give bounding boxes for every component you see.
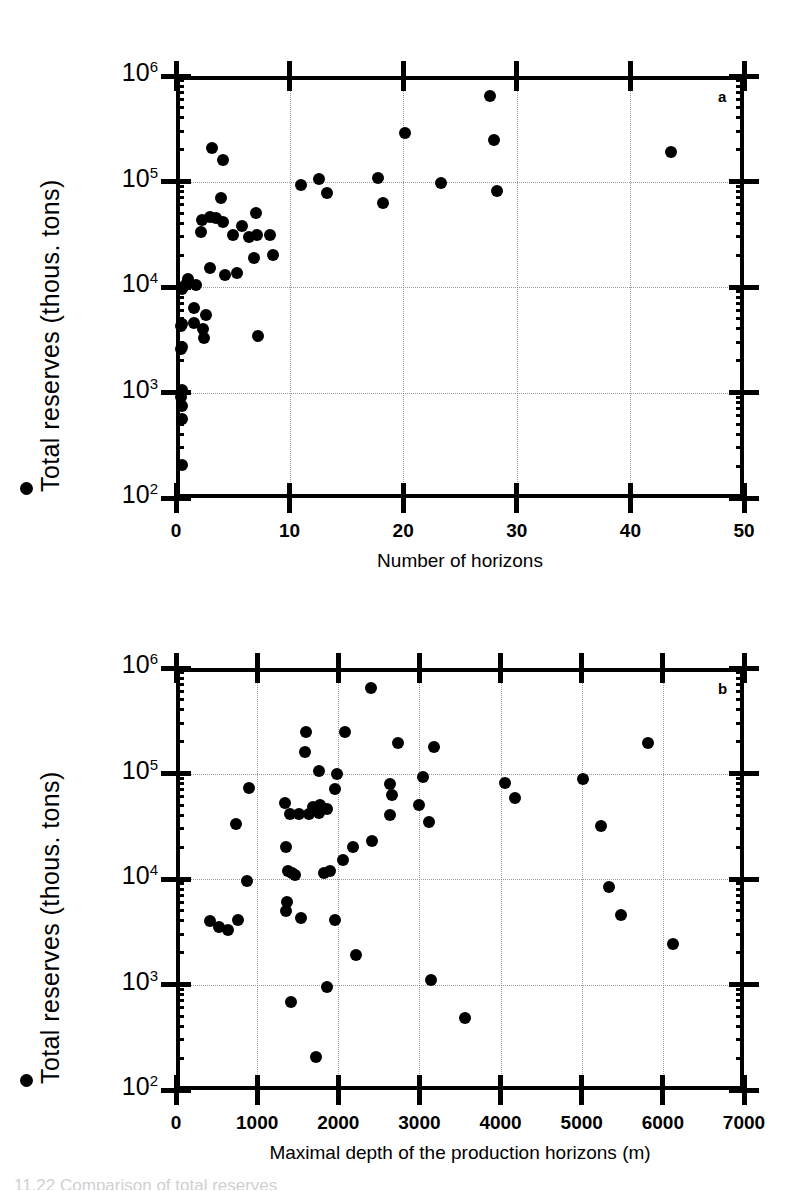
data-point: [423, 816, 435, 828]
y-minor-tick: [736, 327, 744, 330]
y-major-tick: [729, 390, 759, 395]
y-minor-tick: [736, 846, 744, 849]
y-minor-tick: [176, 91, 184, 94]
y-minor-tick: [736, 359, 744, 362]
gridline-horizontal: [176, 182, 744, 183]
y-axis-label: Total reserves (thous. tons): [36, 771, 65, 1084]
y-minor-tick: [736, 1006, 744, 1009]
data-point: [206, 142, 218, 154]
y-major-tick: [161, 982, 191, 987]
y-minor-tick: [176, 909, 184, 912]
x-major-tick: [417, 1075, 422, 1105]
gridline-vertical: [290, 76, 291, 498]
y-major-tick: [729, 982, 759, 987]
y-minor-tick: [736, 190, 744, 193]
x-major-tick: [628, 61, 633, 91]
data-point: [459, 1012, 471, 1024]
y-minor-tick: [736, 993, 744, 996]
y-minor-tick: [736, 446, 744, 449]
y-minor-tick: [736, 85, 744, 88]
data-point: [377, 197, 389, 209]
y-minor-tick: [176, 795, 184, 798]
y-minor-tick: [736, 254, 744, 257]
data-point: [435, 177, 447, 189]
data-point: [248, 252, 260, 264]
panel-label-a: a: [718, 88, 726, 105]
y-minor-tick: [736, 302, 744, 305]
data-point: [313, 807, 325, 819]
y-minor-tick: [176, 722, 184, 725]
y-minor-tick: [176, 788, 184, 791]
y-minor-tick: [736, 1015, 744, 1018]
y-minor-tick: [176, 999, 184, 1002]
y-minor-tick: [736, 1025, 744, 1028]
data-point: [236, 220, 248, 232]
y-minor-tick: [176, 106, 184, 109]
y-minor-tick: [736, 203, 744, 206]
y-minor-tick: [736, 933, 744, 936]
y-minor-tick: [736, 98, 744, 101]
y-minor-tick: [736, 401, 744, 404]
y-minor-tick: [176, 296, 184, 299]
data-point: [499, 777, 511, 789]
y-minor-tick: [736, 919, 744, 922]
y-minor-tick: [176, 85, 184, 88]
y-minor-tick: [176, 309, 184, 312]
y-tick-label: 103: [72, 967, 158, 996]
y-minor-tick: [736, 317, 744, 320]
x-axis-label: Number of horizons: [176, 550, 744, 572]
data-point: [300, 726, 312, 738]
data-point: [417, 771, 429, 783]
y-tick-label: 106: [72, 58, 158, 87]
y-minor-tick: [736, 677, 744, 680]
y-minor-tick: [736, 804, 744, 807]
y-minor-tick: [736, 999, 744, 1002]
y-minor-tick: [736, 690, 744, 693]
x-major-tick: [660, 1075, 665, 1105]
data-point: [329, 783, 341, 795]
y-minor-tick: [176, 235, 184, 238]
gridline-vertical: [663, 668, 664, 1090]
y-tick-label: 104: [72, 269, 158, 298]
y-minor-tick: [176, 1006, 184, 1009]
y-minor-tick: [176, 196, 184, 199]
y-axis-bullet-marker: [20, 482, 33, 495]
y-minor-tick: [736, 708, 744, 711]
gridline-vertical: [419, 668, 420, 1090]
data-point: [321, 981, 333, 993]
y-minor-tick: [176, 846, 184, 849]
data-point: [324, 865, 336, 877]
data-point: [175, 343, 187, 355]
y-minor-tick: [736, 909, 744, 912]
y-minor-tick: [736, 309, 744, 312]
data-point: [243, 782, 255, 794]
y-major-tick: [729, 877, 759, 882]
y-minor-tick: [176, 804, 184, 807]
y-minor-tick: [176, 302, 184, 305]
y-minor-tick: [176, 740, 184, 743]
x-major-tick: [498, 1075, 503, 1105]
y-minor-tick: [736, 671, 744, 674]
y-minor-tick: [736, 396, 744, 399]
y-major-tick: [161, 666, 191, 671]
gridline-vertical: [630, 76, 631, 498]
data-point: [232, 914, 244, 926]
gridline-vertical: [403, 76, 404, 498]
y-tick-label: 105: [72, 756, 158, 785]
y-minor-tick: [736, 888, 744, 891]
y-minor-tick: [736, 740, 744, 743]
y-minor-tick: [176, 98, 184, 101]
y-minor-tick: [176, 919, 184, 922]
y-minor-tick: [176, 894, 184, 897]
y-minor-tick: [736, 222, 744, 225]
y-minor-tick: [176, 671, 184, 674]
gridline-vertical: [517, 76, 518, 498]
data-point: [615, 909, 627, 921]
y-minor-tick: [176, 782, 184, 785]
y-axis-label: Total reserves (thous. tons): [36, 179, 65, 492]
y-major-tick: [729, 771, 759, 776]
y-minor-tick: [176, 446, 184, 449]
panel-b: 1061051041031020100020003000400050006000…: [0, 592, 800, 1191]
data-point: [200, 309, 212, 321]
x-tick-label: 30: [462, 520, 572, 542]
